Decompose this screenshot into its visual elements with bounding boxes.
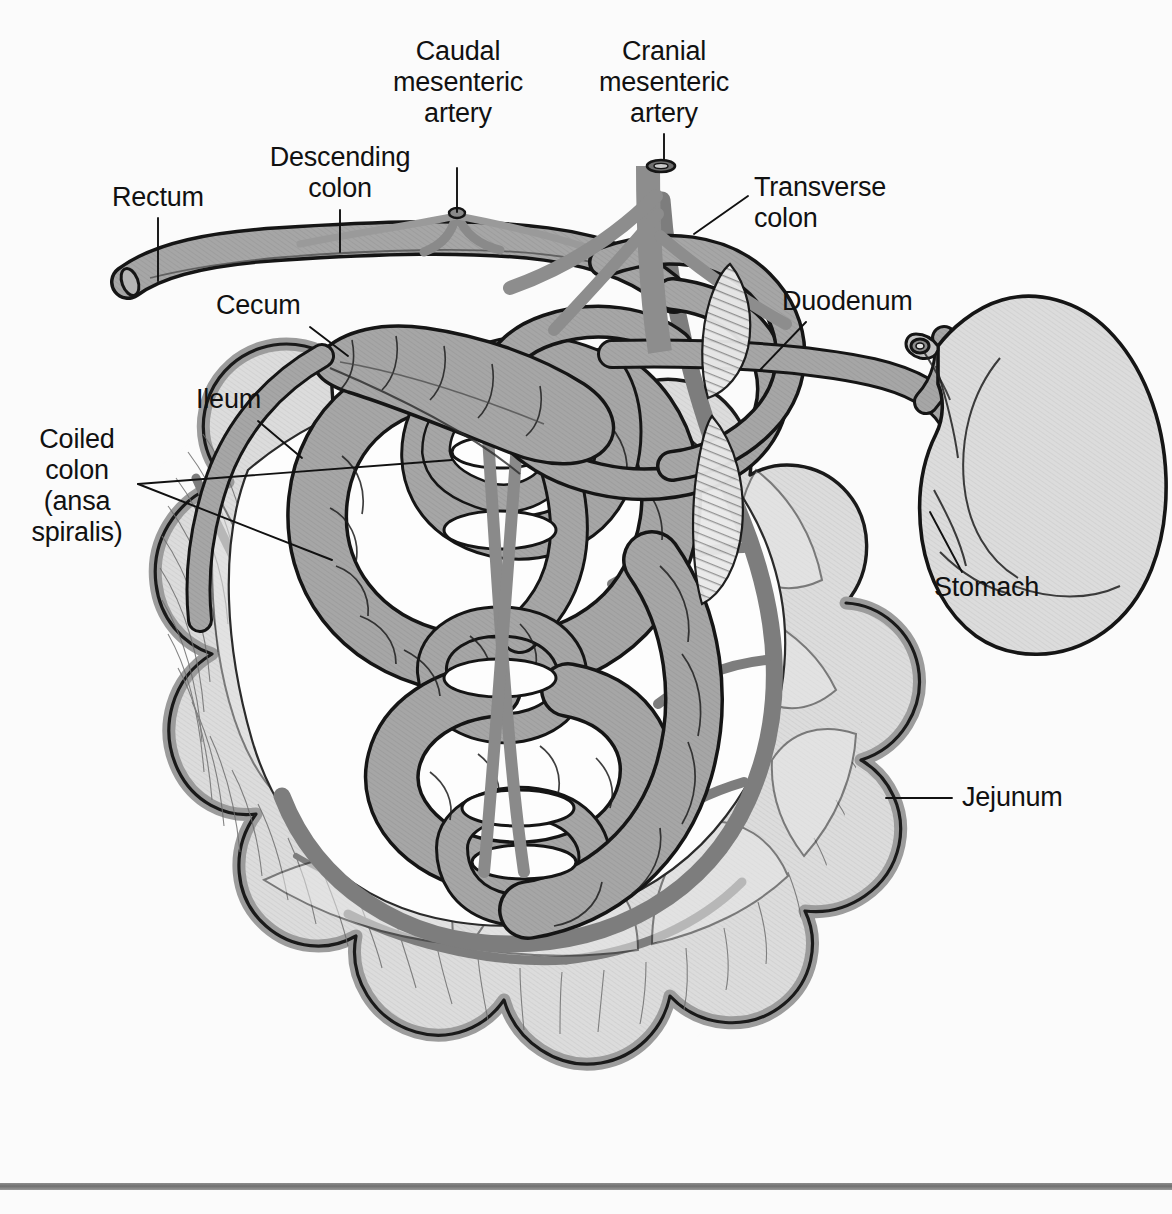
label-rectum: Rectum	[112, 182, 204, 213]
label-caudal-mesenteric-artery: Caudal mesenteric artery	[384, 36, 532, 129]
leader-transverse-colon	[694, 196, 748, 234]
label-coiled-colon: Coiled colon (ansa spiralis)	[14, 424, 140, 548]
label-descending-colon: Descending colon	[266, 142, 414, 204]
label-jejunum: Jejunum	[962, 782, 1063, 813]
label-cranial-mesenteric-artery: Cranial mesenteric artery	[588, 36, 740, 129]
pylorus-opening-inner	[916, 343, 924, 349]
label-transverse-colon: Transverse colon	[754, 172, 886, 234]
label-cecum: Cecum	[216, 290, 301, 321]
label-ileum: Ileum	[196, 384, 261, 415]
label-stomach: Stomach	[934, 572, 1039, 603]
bottom-divider-rule	[0, 1183, 1172, 1190]
duodenal-cut-hatch	[702, 264, 750, 398]
figure-page: Rectum Descending colon Caudal mesenteri…	[0, 0, 1172, 1214]
label-duodenum: Duodenum	[782, 286, 913, 317]
